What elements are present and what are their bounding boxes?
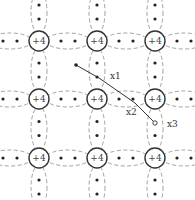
bond-electron [15,39,18,42]
bond-electron [153,192,156,195]
bond-electron [37,61,40,64]
atom-label: +4 [32,36,46,46]
bond-electron [189,156,192,159]
bond-electron [37,3,40,6]
bond-electron [37,120,40,123]
bond-lobe [46,91,90,107]
bond-lobe [31,107,47,151]
bond-electron [153,17,156,20]
bond-electron [189,97,192,100]
bond-electron [73,156,76,159]
bond-electron [37,192,40,195]
free-electron [74,63,78,67]
atom-label: +4 [32,153,46,163]
bond-electron [95,120,98,123]
bond-electron [59,156,62,159]
atom-label: +4 [148,153,162,163]
bond-electron [95,3,98,6]
bond-lobe [89,48,105,92]
atom-label: +4 [90,36,104,46]
lattice-diagram: +4+4+4+4+4+4+4+4+4 x1x2x3 +4 +4 +4 +4 +4… [0,0,195,200]
bond-lobe [104,33,148,49]
bond-electron [59,97,62,100]
bond-electron [131,97,134,100]
bond-electron [37,134,40,137]
bond-electron [95,134,98,137]
bond-electron [1,97,4,100]
bond-electron [153,178,156,181]
bond-electron [153,3,156,6]
bond-electron [153,134,156,137]
bond-electron [1,156,4,159]
bond-lobe [147,107,163,151]
atom-label: +4 [148,36,162,46]
bond-electron [37,178,40,181]
bond-electron [1,39,4,42]
bond-electron [153,61,156,64]
bond-electron [153,75,156,78]
bond-electron [95,178,98,181]
bond-electron [37,75,40,78]
bond-electron [189,39,192,42]
bond-electron [175,97,178,100]
bond-lobe [104,91,148,107]
path-label-x2: x2 [126,107,137,117]
path-label-x1: x1 [110,71,121,81]
bond-electron [95,192,98,195]
atom-label: +4 [90,153,104,163]
bond-lobe [147,48,163,92]
bond-electron [73,39,76,42]
hole [153,121,157,125]
bond-electron [15,97,18,100]
bond-electron [95,17,98,20]
path-label-x3: x3 [167,119,178,129]
bond-electron [117,97,120,100]
bond-lobe [89,107,105,151]
bond-electron [175,39,178,42]
lattice-svg: +4+4+4+4+4+4+4+4+4 x1x2x3 [0,0,195,200]
atom-label: +4 [90,94,104,104]
bond-lobe [46,150,90,166]
bond-electron [131,156,134,159]
bond-electron [59,39,62,42]
bond-electron [117,156,120,159]
bond-electron [73,97,76,100]
bond-electron [117,39,120,42]
atom-label: +4 [32,94,46,104]
bond-electron [15,156,18,159]
bond-electron [37,17,40,20]
bond-electron [131,39,134,42]
bond-electron [95,61,98,64]
atom-label: +4 [148,94,162,104]
atoms: +4+4+4+4+4+4+4+4+4 [29,31,165,168]
bond-lobe [104,150,148,166]
bond-electron [175,156,178,159]
bond-lobe [31,48,47,92]
bond-lobe [46,33,90,49]
